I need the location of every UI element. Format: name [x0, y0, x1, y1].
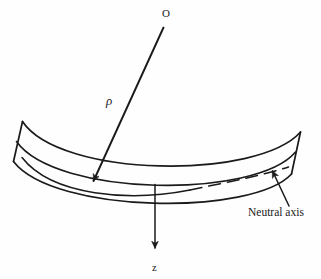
- radius-line: [94, 28, 164, 182]
- neutral-axis-label: Neutral axis: [248, 207, 304, 219]
- beam-outer-top-arc: [23, 122, 301, 167]
- radius-rho-label: ρ: [106, 94, 112, 107]
- diagram-canvas: [0, 0, 321, 279]
- curved-beam-diagram: O ρ Neutral axis z: [0, 0, 321, 279]
- neutral-axis-solid-segment: [22, 158, 190, 196]
- center-of-curvature-label: O: [162, 8, 170, 19]
- z-axis-label: z: [152, 263, 157, 274]
- neutral-axis-pointer-arrow: [273, 171, 290, 206]
- beam-left-end-face: [14, 122, 23, 162]
